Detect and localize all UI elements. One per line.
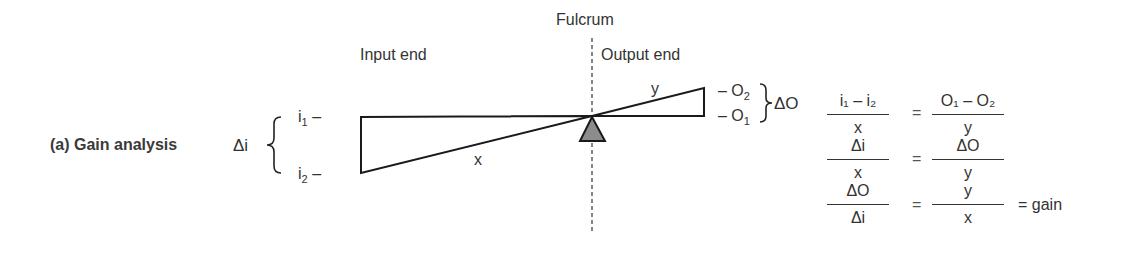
eq3-equals: = — [912, 196, 921, 214]
i1-label: i1 – — [298, 109, 321, 125]
input-end-label: Input end — [360, 47, 427, 63]
y-arm-label: y — [651, 81, 659, 97]
fulcrum-icon — [580, 117, 605, 141]
o1-label: – O1 — [718, 108, 750, 124]
eq2-rhs-fraction: ΔOy — [932, 137, 1004, 182]
figure-title: (a) Gain analysis — [50, 137, 177, 153]
delta-o-label: ΔO — [774, 95, 799, 112]
delta-i-brace — [267, 117, 281, 173]
eq3-lhs-fraction: ΔOΔi — [827, 182, 889, 227]
fulcrum-label: Fulcrum — [556, 12, 614, 28]
i2-label: i2 – — [298, 166, 321, 182]
eq1-lhs-fraction: i₁ – i₂x — [827, 92, 889, 137]
eq1-rhs-fraction: O₁ – O₂y — [932, 92, 1004, 137]
eq3-rhs-fraction: yx — [932, 182, 1004, 227]
output-lever-triangle — [592, 88, 704, 116]
delta-i-label: Δi — [233, 137, 248, 154]
eq2-equals: = — [912, 150, 921, 168]
gain-label: = gain — [1018, 196, 1062, 214]
o2-label: – O2 — [718, 83, 750, 99]
delta-o-brace — [760, 84, 772, 122]
x-arm-label: x — [474, 152, 482, 168]
eq2-lhs-fraction: Δix — [827, 137, 889, 182]
output-end-label: Output end — [601, 47, 680, 63]
eq1-equals: = — [912, 104, 921, 122]
